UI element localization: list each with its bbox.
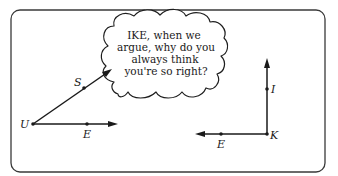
speech-line-2: argue, why do you: [117, 41, 215, 53]
cartoon-panel: IKE, when we argue, why do you always th…: [0, 0, 338, 176]
point-k: [265, 132, 269, 136]
point-s: [82, 86, 86, 90]
label-u: U: [20, 118, 30, 131]
point-u: [31, 122, 35, 126]
ray-us: [33, 72, 108, 124]
point-i: [265, 87, 269, 91]
label-i: I: [270, 83, 276, 96]
speech-line-3: always think: [132, 53, 200, 65]
label-k: K: [269, 129, 279, 142]
label-e-right: E: [216, 138, 225, 151]
label-s: S: [74, 76, 82, 89]
point-e-right: [219, 132, 223, 136]
arrowhead-ki: [264, 58, 270, 68]
arrowhead-ke: [195, 131, 205, 137]
point-e-left: [85, 122, 89, 126]
speech-line-4: you're so right?: [123, 65, 208, 77]
arrowhead-ue: [108, 121, 118, 127]
angle-sue: U S E: [20, 69, 118, 141]
speech-line-1: IKE, when we: [127, 29, 201, 41]
label-e-left: E: [82, 128, 91, 141]
